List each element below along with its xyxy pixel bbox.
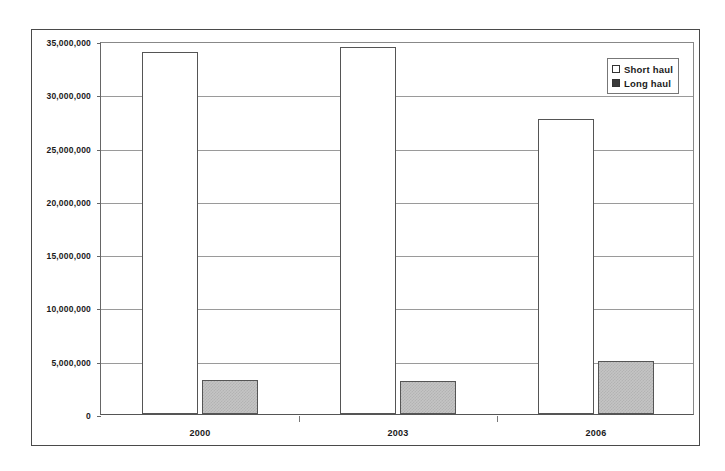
y-axis-tick-mark (97, 150, 101, 151)
x-axis-category-separator (497, 416, 498, 422)
filled-square-icon (612, 79, 620, 87)
y-axis-tick-label: 15,000,000 (29, 251, 91, 261)
legend-item-long-haul: Long haul (612, 76, 673, 90)
x-axis-tick-label-2006: 2006 (585, 428, 606, 438)
bar-short-haul-2003 (340, 47, 396, 414)
y-axis-tick-label: 30,000,000 (29, 91, 91, 101)
x-axis-tick-label-2003: 2003 (387, 428, 408, 438)
bar-short-haul-2000 (142, 52, 198, 414)
legend-label-short-haul: Short haul (624, 64, 673, 75)
chart-legend: Short haul Long haul (607, 58, 679, 94)
x-axis-category-separator (299, 416, 300, 422)
x-axis-tick-label-2000: 2000 (189, 428, 210, 438)
y-axis-tick-label: 10,000,000 (29, 304, 91, 314)
y-axis-tick-label: 20,000,000 (29, 198, 91, 208)
y-axis-tick-mark (97, 416, 101, 417)
y-axis-tick-mark (97, 256, 101, 257)
y-axis-tick-label: 0 (29, 411, 91, 421)
y-axis-tick-mark (97, 203, 101, 204)
y-axis-tick-label: 25,000,000 (29, 145, 91, 155)
legend-label-long-haul: Long haul (624, 78, 671, 89)
y-axis-tick-mark (97, 363, 101, 364)
bar-long-haul-2000 (202, 380, 258, 414)
y-axis-tick-label: 35,000,000 (29, 38, 91, 48)
y-axis-tick-mark (97, 309, 101, 310)
bar-long-haul-2003 (400, 381, 456, 414)
bar-long-haul-2006 (598, 361, 654, 414)
bar-short-haul-2006 (538, 119, 594, 414)
y-axis-tick-label: 5,000,000 (29, 358, 91, 368)
plot-area: 05,000,00010,000,00015,000,00020,000,000… (100, 42, 694, 415)
y-axis-tick-mark (97, 43, 101, 44)
y-axis-tick-mark (97, 96, 101, 97)
legend-item-short-haul: Short haul (612, 62, 673, 76)
open-square-icon (612, 65, 620, 73)
chart-frame: 05,000,00010,000,00015,000,00020,000,000… (31, 29, 700, 446)
